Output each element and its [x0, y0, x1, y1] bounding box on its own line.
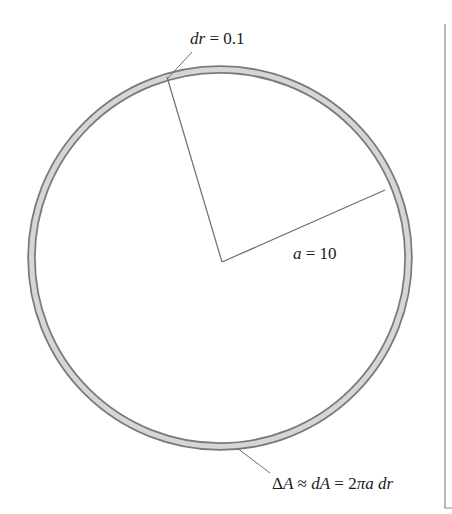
radius-line-to-top — [167, 77, 222, 262]
thin-ring — [32, 70, 409, 447]
radius-label: a = 10 — [293, 244, 337, 263]
ring-diagram: dr = 0.1 a = 10 ΔA ≈ dA = 2πa dr — [0, 0, 452, 514]
margin-rule — [445, 24, 452, 508]
area-pointer-line — [237, 448, 270, 473]
area-formula-label: ΔA ≈ dA = 2πa dr — [272, 474, 393, 493]
dr-label: dr = 0.1 — [190, 29, 244, 48]
